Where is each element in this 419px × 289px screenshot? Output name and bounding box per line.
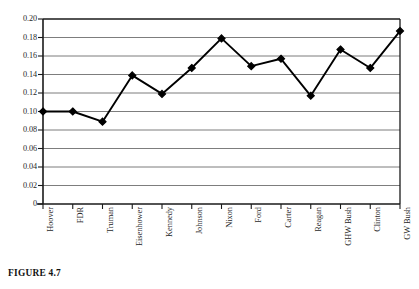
x-axis-tick-label: Nixon (225, 207, 234, 228)
x-axis-tick-label: Reagan (314, 207, 323, 232)
x-axis-tick-label: GHW Bush (344, 207, 353, 246)
figure-container: 0.200.180.160.140.120.100.080.060.040.02… (0, 0, 419, 289)
figure-caption: FIGURE 4.7 (8, 268, 61, 278)
x-axis-tick-label: FDR (76, 207, 85, 223)
x-axis-tick-label: Hoover (46, 207, 55, 232)
x-axis-tick-label: Ford (254, 207, 263, 223)
chart-plot-area: 0.200.180.160.140.120.100.080.060.040.02… (0, 0, 419, 215)
data-line (43, 31, 400, 122)
data-point-marker (69, 108, 76, 115)
x-axis-tick-label: Truman (106, 207, 115, 233)
x-axis-labels: HooverFDRTrumanEisenhowerKennedyJohnsonN… (0, 205, 419, 287)
x-axis-tick-label: Johnson (195, 207, 204, 234)
line-chart-graphic (0, 0, 419, 215)
data-point-marker (40, 108, 47, 115)
x-axis-tick-label: Carter (284, 207, 293, 228)
x-axis-tick-label: Eisenhower (135, 207, 144, 246)
x-axis-tick-label: Kennedy (165, 207, 174, 237)
x-axis-tick-label: Clinton (373, 207, 382, 232)
x-axis-tick-label: GW Bush (403, 207, 412, 240)
